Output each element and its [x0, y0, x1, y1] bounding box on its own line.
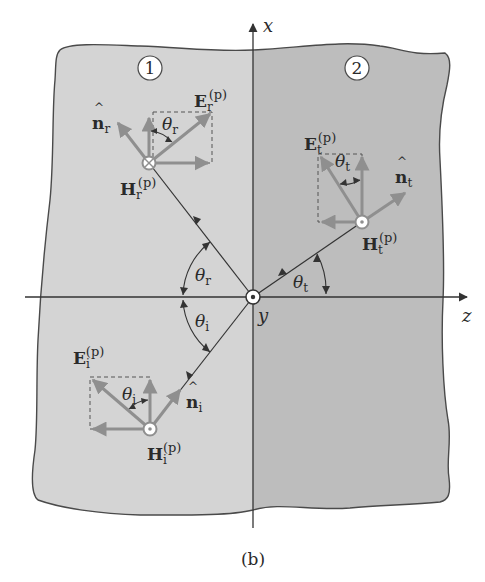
- region-label-2: 2: [345, 56, 369, 80]
- z-axis-label: z: [461, 305, 472, 326]
- transmitted-n-hat: ^: [397, 155, 407, 169]
- svg-text:1: 1: [145, 58, 156, 78]
- origin-y-out-of-page-icon: [246, 290, 260, 304]
- region-label-1: 1: [138, 56, 162, 80]
- incident-n-hat: ^: [188, 380, 198, 394]
- x-axis-label: x: [263, 15, 273, 36]
- reflection-refraction-diagram: x z y 1 2 θr θi θt: [0, 0, 485, 582]
- reflected-n-hat: ^: [94, 101, 104, 115]
- y-axis-label: y: [257, 305, 269, 326]
- svg-text:2: 2: [352, 58, 363, 78]
- figure-caption: (b): [241, 549, 265, 569]
